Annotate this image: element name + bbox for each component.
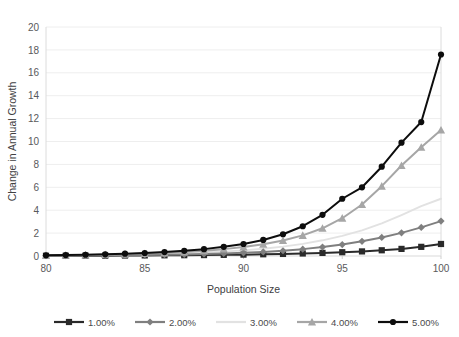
legend-item-400[interactable]: 4.00% <box>297 317 358 328</box>
x-tick-label: 80 <box>40 263 52 274</box>
legend-label: 2.00% <box>169 317 196 328</box>
data-point-marker <box>280 231 286 237</box>
y-tick-label: 12 <box>28 113 40 124</box>
data-point-marker <box>82 252 88 258</box>
y-tick-label: 20 <box>28 22 40 33</box>
data-point-marker <box>201 246 207 252</box>
data-point-marker <box>319 250 325 256</box>
legend-item-200[interactable]: 2.00% <box>135 317 196 328</box>
y-tick-label: 4 <box>33 205 39 216</box>
data-point-marker <box>63 252 69 258</box>
x-tick-label: 90 <box>238 263 250 274</box>
line-chart: 0246810121416182080859095100Population S… <box>0 0 459 337</box>
y-tick-label: 10 <box>28 136 40 147</box>
data-point-marker <box>379 164 385 170</box>
data-point-marker <box>181 248 187 254</box>
data-point-marker <box>221 244 227 250</box>
y-tick-label: 0 <box>33 251 39 262</box>
data-point-marker <box>161 249 167 255</box>
x-tick-label: 95 <box>337 263 349 274</box>
data-point-marker <box>390 319 396 325</box>
data-point-marker <box>260 237 266 243</box>
legend-label: 3.00% <box>250 317 277 328</box>
data-point-marker <box>146 318 153 325</box>
legend-label: 5.00% <box>412 317 439 328</box>
data-point-marker <box>102 251 108 257</box>
y-tick-label: 18 <box>28 45 40 56</box>
data-point-marker <box>339 196 345 202</box>
data-point-marker <box>398 246 404 252</box>
data-point-marker <box>359 184 365 190</box>
data-point-marker <box>438 51 444 57</box>
x-tick-label: 85 <box>139 263 151 274</box>
data-point-marker <box>339 249 345 255</box>
y-tick-label: 14 <box>28 90 40 101</box>
y-tick-label: 2 <box>33 228 39 239</box>
data-point-marker <box>240 241 246 247</box>
y-tick-label: 6 <box>33 182 39 193</box>
x-tick-labels: 80859095100 <box>40 256 449 274</box>
y-tick-label: 8 <box>33 159 39 170</box>
x-tick-label: 100 <box>433 263 450 274</box>
legend-label: 4.00% <box>331 317 358 328</box>
data-point-marker <box>300 223 306 229</box>
legend: 1.00%2.00%3.00%4.00%5.00% <box>54 317 439 328</box>
y-tick-labels: 02468101214161820 <box>28 22 40 262</box>
data-point-marker <box>418 119 424 125</box>
data-point-marker <box>43 252 49 258</box>
x-axis-title: Population Size <box>207 283 280 295</box>
legend-item-300[interactable]: 3.00% <box>216 317 277 328</box>
y-tick-label: 16 <box>28 67 40 78</box>
y-axis-title: Change in Annual Growth <box>6 82 18 202</box>
data-point-marker <box>398 140 404 146</box>
legend-label: 1.00% <box>88 317 115 328</box>
chart-container: 0246810121416182080859095100Population S… <box>0 0 459 337</box>
data-point-marker <box>418 244 424 250</box>
data-point-marker <box>438 241 444 247</box>
data-point-marker <box>122 251 128 257</box>
data-point-marker <box>379 247 385 253</box>
legend-item-100[interactable]: 1.00% <box>54 317 115 328</box>
data-point-marker <box>319 212 325 218</box>
data-point-marker <box>359 248 365 254</box>
legend-item-500[interactable]: 5.00% <box>378 317 439 328</box>
data-point-marker <box>66 319 72 325</box>
data-point-marker <box>142 250 148 256</box>
